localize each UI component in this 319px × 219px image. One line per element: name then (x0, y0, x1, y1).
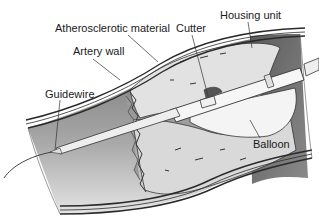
label-balloon: Balloon (253, 138, 290, 150)
label-housing-unit: Housing unit (220, 9, 281, 21)
label-guidewire: Guidewire (45, 88, 95, 100)
label-artery-wall: Artery wall (73, 45, 124, 57)
label-cutter: Cutter (176, 22, 206, 34)
diagram-canvas: Atherosclerotic material Artery wall Gui… (0, 0, 319, 219)
label-atherosclerotic-material: Atherosclerotic material (55, 22, 170, 34)
